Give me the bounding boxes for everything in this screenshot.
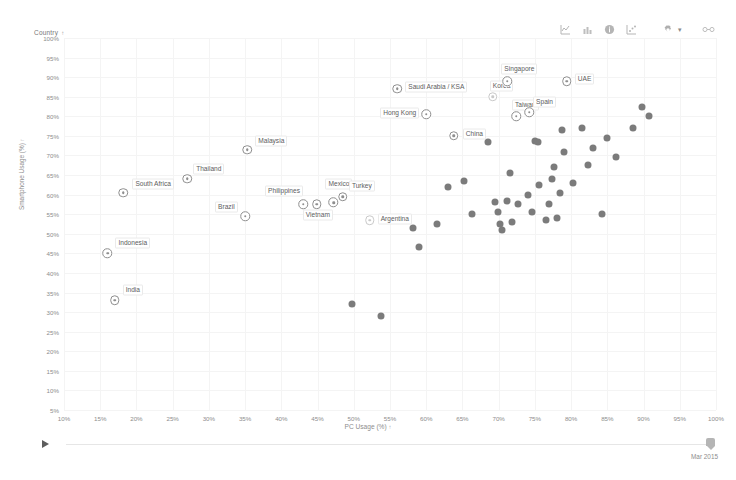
data-point-label[interactable]: Malaysia	[255, 135, 287, 146]
data-point-label[interactable]: Thailand	[193, 163, 224, 174]
data-point-label[interactable]: Indonesia	[115, 238, 150, 249]
data-point[interactable]	[468, 211, 475, 218]
data-point[interactable]	[444, 183, 451, 190]
data-point[interactable]	[378, 313, 385, 320]
play-button-icon[interactable]	[42, 440, 49, 448]
link-icon[interactable]	[699, 20, 718, 39]
data-point[interactable]	[546, 201, 553, 208]
data-point-labeled[interactable]	[511, 112, 521, 122]
data-point-label[interactable]: Saudi Arabia / KSA	[405, 81, 467, 92]
data-point[interactable]	[415, 244, 422, 251]
y-axis-tick-label: 60%	[47, 191, 59, 198]
info-icon[interactable]	[600, 20, 619, 39]
gridline-vertical	[64, 38, 65, 410]
data-point-label[interactable]: Spain	[533, 97, 556, 108]
gear-dropdown-caret[interactable]: ▾	[678, 26, 682, 33]
time-slider[interactable]: Mar 2015	[42, 438, 718, 460]
data-point[interactable]	[598, 211, 605, 218]
y-axis-tick-label: 65%	[47, 172, 59, 179]
data-point[interactable]	[534, 138, 541, 145]
data-point[interactable]	[509, 219, 516, 226]
data-point-label[interactable]: Singapore	[501, 64, 537, 75]
data-point[interactable]	[604, 134, 611, 141]
data-point-label[interactable]: Brazil	[215, 202, 238, 213]
data-point-label[interactable]: India	[123, 285, 143, 296]
data-point[interactable]	[460, 177, 467, 184]
data-point[interactable]	[585, 162, 592, 169]
data-point[interactable]	[514, 201, 521, 208]
data-point-label[interactable]: Vietnam	[303, 210, 333, 221]
data-point[interactable]	[578, 125, 585, 132]
bar-chart-icon[interactable]	[578, 20, 597, 39]
data-point[interactable]	[484, 138, 491, 145]
data-point[interactable]	[498, 226, 505, 233]
data-point-labeled[interactable]	[110, 296, 120, 306]
scatter-plot-area[interactable]: 10%15%20%25%30%35%40%45%50%55%60%65%70%7…	[64, 38, 716, 410]
data-point[interactable]	[613, 154, 620, 161]
data-point[interactable]	[559, 127, 566, 134]
data-point[interactable]	[504, 197, 511, 204]
data-point-labeled[interactable]	[338, 192, 348, 202]
gridline-horizontal	[64, 58, 716, 59]
x-axis-tick-label: 30%	[203, 415, 215, 422]
data-point-label[interactable]: Philippines	[265, 186, 303, 197]
data-point-label[interactable]: Argentina	[378, 214, 412, 225]
y-axis-tick-label: 15%	[47, 367, 59, 374]
data-point[interactable]	[536, 181, 543, 188]
data-point-labeled[interactable]	[243, 145, 253, 155]
data-point[interactable]	[629, 125, 636, 132]
data-point[interactable]	[560, 148, 567, 155]
data-point-labeled[interactable]	[103, 249, 113, 259]
data-point-labeled[interactable]	[365, 215, 375, 225]
data-point-labeled[interactable]	[503, 76, 513, 86]
line-chart-icon[interactable]	[556, 20, 575, 39]
data-point[interactable]	[528, 209, 535, 216]
data-point[interactable]	[589, 144, 596, 151]
data-point-labeled[interactable]	[182, 174, 192, 184]
data-point-labeled[interactable]	[524, 108, 534, 118]
scatter-chart-icon[interactable]	[622, 20, 641, 39]
country-sort-caret: ↑	[61, 30, 64, 36]
data-point-labeled[interactable]	[298, 200, 308, 210]
data-point-label[interactable]: UAE	[575, 74, 595, 85]
data-point[interactable]	[506, 170, 513, 177]
data-point[interactable]	[550, 164, 557, 171]
data-point[interactable]	[494, 209, 501, 216]
data-point-labeled[interactable]	[119, 188, 129, 198]
data-point-labeled[interactable]	[488, 92, 498, 102]
x-axis-tick-label: 80%	[565, 415, 577, 422]
data-point-labeled[interactable]	[562, 76, 572, 86]
gridline-vertical	[209, 38, 210, 410]
data-point-label[interactable]: Turkey	[349, 180, 375, 191]
data-point-labeled[interactable]	[421, 110, 431, 120]
slider-handle-tip	[707, 446, 715, 450]
data-point[interactable]	[646, 113, 653, 120]
data-point[interactable]	[569, 179, 576, 186]
data-point[interactable]	[434, 221, 441, 228]
data-point-labeled[interactable]	[329, 198, 339, 208]
data-point[interactable]	[556, 189, 563, 196]
gridline-horizontal	[64, 410, 716, 411]
data-point-label[interactable]: South Africa	[132, 178, 174, 189]
slider-track[interactable]	[66, 444, 712, 445]
data-point-labeled[interactable]	[449, 131, 459, 141]
data-point[interactable]	[410, 224, 417, 231]
data-point-labeled[interactable]	[392, 84, 402, 94]
data-point-label[interactable]: Hong Kong	[380, 108, 419, 119]
x-axis-tick-label: 60%	[420, 415, 432, 422]
x-axis-tick-label: 15%	[94, 415, 106, 422]
slider-handle[interactable]	[706, 438, 715, 450]
data-point[interactable]	[553, 215, 560, 222]
data-point[interactable]	[492, 199, 499, 206]
data-point[interactable]	[542, 217, 549, 224]
data-point-label[interactable]: China	[463, 128, 486, 139]
y-axis-tick-label: 55%	[47, 211, 59, 218]
data-point-labeled[interactable]	[312, 200, 322, 210]
data-point[interactable]	[549, 175, 556, 182]
data-point[interactable]	[524, 191, 531, 198]
data-point[interactable]	[349, 301, 356, 308]
data-point-labeled[interactable]	[240, 211, 250, 221]
gear-icon[interactable]	[658, 20, 677, 39]
data-point[interactable]	[639, 103, 646, 110]
gridline-vertical	[100, 38, 101, 410]
